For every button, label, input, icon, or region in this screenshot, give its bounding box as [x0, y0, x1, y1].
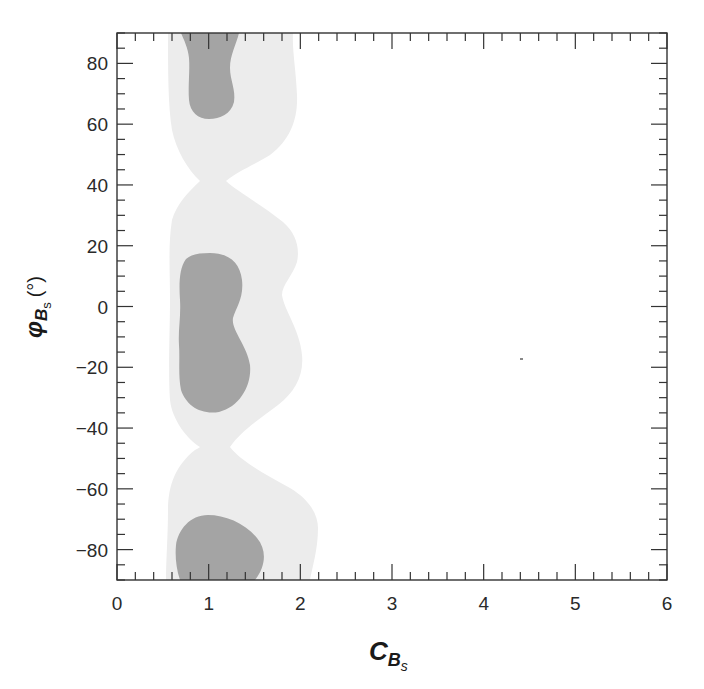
y-tick-label: 0 [97, 297, 108, 318]
y-tick-label: −40 [76, 418, 108, 439]
x-tick-label: 2 [295, 593, 306, 614]
data-speck [520, 358, 523, 360]
x-tick-label: 5 [570, 593, 581, 614]
y-axis-label: φBs(°) [20, 276, 54, 338]
y-tick-labels: 806040200−20−40−60−80 [76, 53, 108, 560]
x-tick-label: 1 [203, 593, 214, 614]
y-tick-label: −20 [76, 357, 108, 378]
y-tick-label: 20 [87, 236, 108, 257]
x-tick-label: 0 [112, 593, 123, 614]
x-tick-labels: 0123456 [112, 593, 673, 614]
x-tick-label: 3 [387, 593, 398, 614]
x-tick-label: 6 [662, 593, 673, 614]
y-tick-label: 60 [87, 114, 108, 135]
x-tick-label: 4 [478, 593, 489, 614]
y-tick-label: 40 [87, 175, 108, 196]
contour-chart: 0123456 806040200−20−40−60−80 CBs φBs(°) [0, 0, 704, 689]
y-tick-label: −80 [76, 540, 108, 561]
y-tick-label: −60 [76, 479, 108, 500]
y-tick-label: 80 [87, 53, 108, 74]
x-axis-label: CBs [369, 636, 408, 674]
